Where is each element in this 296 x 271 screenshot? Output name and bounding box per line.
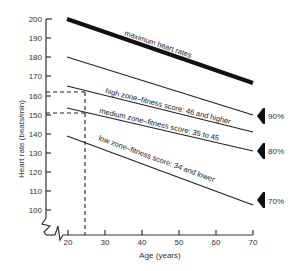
x-tick-labels: 20 30 40 50 60 70	[64, 238, 258, 247]
label-low-zone: low zone–fitness score: 34 and lower	[97, 133, 216, 184]
y-axis-title: Heart rate (beats/min)	[17, 100, 26, 178]
label-70: 70%	[268, 197, 284, 206]
svg-text:20: 20	[64, 238, 73, 247]
svg-text:120: 120	[29, 168, 43, 177]
svg-text:190: 190	[29, 34, 43, 43]
x-axis-title: Age (years)	[139, 251, 181, 260]
arrow-90-icon	[257, 108, 265, 124]
x-axis	[46, 226, 253, 240]
svg-text:110: 110	[29, 187, 42, 196]
svg-text:50: 50	[175, 238, 184, 247]
svg-text:200: 200	[29, 15, 43, 24]
low-zone-line	[67, 136, 253, 205]
max-heart-rate-line	[67, 19, 253, 83]
svg-text:60: 60	[212, 238, 221, 247]
arrow-70-icon	[257, 192, 265, 208]
heart-rate-chart: 200 190 180 170 160 150 140 130 120 110 …	[0, 0, 296, 271]
svg-text:160: 160	[29, 92, 43, 101]
svg-text:130: 130	[29, 149, 43, 158]
reference-lines	[46, 92, 85, 235]
svg-text:30: 30	[101, 238, 110, 247]
svg-text:140: 140	[29, 130, 43, 139]
y-axis	[42, 19, 52, 235]
label-90: 90%	[268, 112, 284, 121]
svg-text:70: 70	[249, 238, 258, 247]
svg-text:170: 170	[29, 72, 43, 81]
svg-text:150: 150	[29, 111, 43, 120]
svg-text:100: 100	[29, 206, 43, 215]
y-tick-labels: 200 190 180 170 160 150 140 130 120 110 …	[29, 15, 43, 215]
label-80: 80%	[268, 147, 284, 156]
arrow-80-icon	[257, 143, 265, 159]
label-max: maximum heart rates	[123, 28, 193, 60]
svg-text:40: 40	[138, 238, 147, 247]
svg-text:180: 180	[29, 53, 43, 62]
medium-zone-line	[67, 108, 253, 151]
